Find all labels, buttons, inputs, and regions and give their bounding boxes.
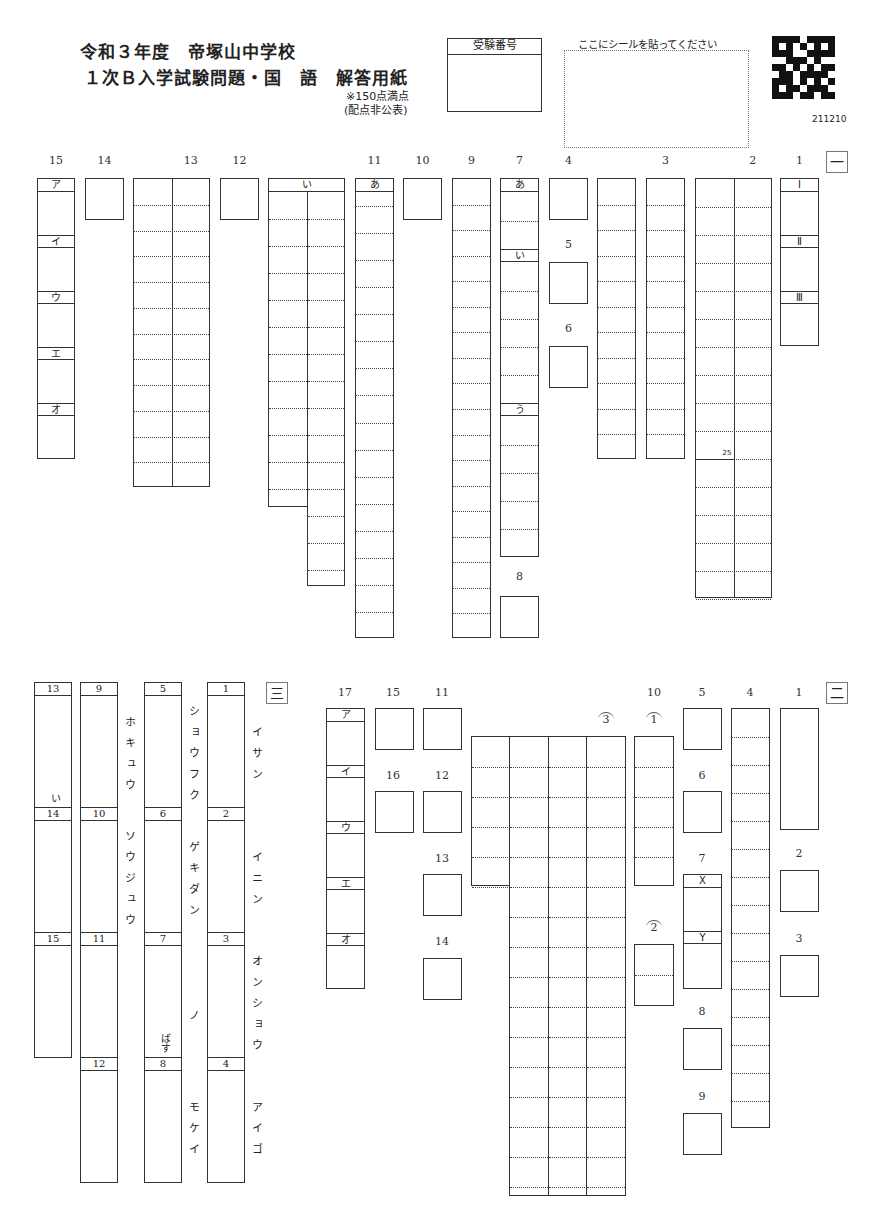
kanji-answer-box-10[interactable]: 10 — [80, 807, 118, 933]
row-divider — [732, 765, 769, 766]
row-divider — [587, 797, 625, 798]
kanji-answer-box-13[interactable]: 13い — [34, 682, 72, 808]
answer-box-q10-1[interactable] — [634, 736, 674, 886]
question-number: 10 — [408, 154, 438, 167]
answer-box-q15[interactable] — [375, 708, 414, 750]
answer-box-q14[interactable] — [423, 958, 462, 1000]
row-divider — [472, 857, 510, 858]
answer-box-q12[interactable] — [423, 791, 462, 833]
row-divider — [356, 341, 393, 342]
kanji-answer-box-5[interactable]: 5 — [144, 682, 182, 808]
row-divider — [134, 359, 209, 360]
column-divider — [734, 179, 735, 597]
row-divider — [134, 256, 209, 257]
answer-box-q1[interactable] — [780, 708, 819, 830]
sticker-area — [564, 50, 749, 148]
row-divider — [269, 300, 307, 301]
answer-box-q9[interactable] — [452, 178, 491, 638]
row-divider — [453, 358, 490, 359]
row-divider — [308, 327, 345, 328]
answer-box-q2[interactable] — [780, 870, 819, 912]
question-number: 8 — [505, 570, 535, 583]
question-number: 9 — [457, 154, 487, 167]
row-divider — [308, 543, 345, 544]
row-divider — [696, 263, 771, 264]
row-divider — [308, 570, 345, 571]
item-number: 3 — [208, 933, 244, 946]
kanji-answer-box-8[interactable]: 8 — [144, 1057, 182, 1183]
answer-box-q10[interactable] — [403, 178, 442, 220]
question-number: 5 — [554, 238, 584, 251]
row-divider — [134, 385, 209, 386]
answer-box-q1[interactable]: ⅠⅡⅢ — [780, 178, 819, 346]
row-divider — [587, 1097, 625, 1098]
kanji-answer-box-11[interactable]: 11 — [80, 932, 118, 1058]
answer-box-q13[interactable] — [423, 874, 462, 916]
row-divider — [356, 395, 393, 396]
question-number: 13 — [176, 154, 206, 167]
answer-column[interactable] — [268, 191, 308, 507]
answer-box-q6[interactable] — [683, 791, 722, 833]
answer-box-q13[interactable] — [133, 178, 210, 487]
answer-box-q14[interactable] — [85, 178, 124, 220]
answer-box-q7[interactable]: あいう — [500, 178, 539, 557]
row-divider — [510, 1187, 548, 1188]
answer-box-q9[interactable] — [683, 1113, 722, 1155]
kanji-answer-box-7[interactable]: 7ばす — [144, 932, 182, 1058]
question-number: 14 — [427, 935, 457, 948]
answer-box-q17[interactable]: アイウエオ — [326, 708, 365, 989]
answer-box-q3[interactable] — [780, 955, 819, 997]
kanji-answer-box-15[interactable]: 15 — [34, 932, 72, 1058]
question-number: 12 — [225, 154, 255, 167]
row-divider — [598, 281, 635, 282]
row-divider — [501, 445, 538, 446]
kanji-answer-box-1[interactable]: 1 — [207, 682, 245, 808]
circled-number: 3 — [598, 712, 614, 726]
answer-box-q16[interactable] — [375, 791, 414, 833]
answer-box-q4[interactable] — [549, 178, 588, 220]
kanji-answer-box-4[interactable]: 4 — [207, 1057, 245, 1183]
answer-grid-3-col4[interactable] — [471, 736, 511, 886]
answer-box-q8[interactable] — [683, 1028, 722, 1070]
answer-box-q12[interactable] — [220, 178, 259, 220]
answer-box-q7[interactable]: XY — [683, 874, 722, 989]
answer-box-q5[interactable] — [683, 708, 722, 750]
answer-box-q15[interactable]: アイウエオ — [37, 178, 75, 459]
row-divider — [549, 887, 587, 888]
row-divider — [647, 281, 684, 282]
kanji-answer-box-12[interactable]: 12 — [80, 1057, 118, 1183]
row-divider — [269, 246, 307, 247]
answer-grid-3-col[interactable] — [509, 736, 549, 1196]
exam-number-box[interactable]: 受験番号 — [447, 38, 542, 112]
item-number: 7 — [145, 933, 181, 946]
row-divider — [549, 1157, 587, 1158]
answer-box-q6[interactable] — [549, 346, 588, 388]
answer-box-q8[interactable] — [500, 596, 539, 638]
answer-box-q4[interactable] — [731, 708, 770, 1128]
row-divider — [647, 358, 684, 359]
answer-box-q11[interactable]: あ — [355, 178, 394, 638]
answer-column[interactable] — [307, 191, 346, 586]
answer-box-q2[interactable]: 25 — [695, 178, 772, 598]
row-divider — [549, 1187, 587, 1188]
kanji-answer-box-14[interactable]: 14 — [34, 807, 72, 933]
row-divider — [510, 857, 548, 858]
answer-grid-3-col[interactable] — [586, 736, 626, 1196]
sublabel-x: X — [684, 875, 721, 888]
question-number: 5 — [687, 686, 717, 699]
row-divider — [134, 334, 209, 335]
answer-grid-3-col[interactable] — [548, 736, 588, 1196]
answer-box-q10-2[interactable] — [634, 944, 674, 1006]
answer-box-q3[interactable] — [646, 178, 685, 459]
answer-box-q11[interactable] — [423, 708, 462, 750]
answer-box-q5[interactable] — [549, 262, 588, 304]
kanji-answer-box-2[interactable]: 2 — [207, 807, 245, 933]
answer-box-q3a[interactable] — [597, 178, 636, 459]
kanji-answer-box-6[interactable]: 6 — [144, 807, 182, 933]
row-divider — [356, 423, 393, 424]
kanji-answer-box-3[interactable]: 3 — [207, 932, 245, 1058]
row-divider — [647, 332, 684, 333]
row-divider — [549, 827, 587, 828]
row-divider — [732, 793, 769, 794]
kanji-answer-box-9[interactable]: 9 — [80, 682, 118, 808]
